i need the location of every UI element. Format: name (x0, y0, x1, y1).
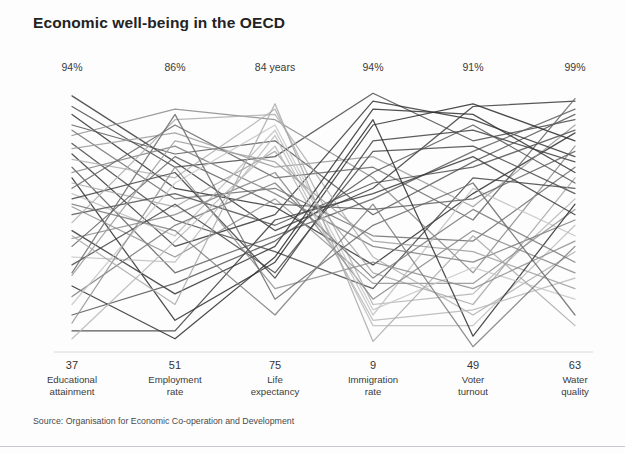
page-title: Economic well-being in the OECD (33, 14, 285, 32)
plot-canvas (0, 52, 625, 357)
axis-name-line2-3: expectancy (251, 386, 300, 398)
axis-min-value-5: 49 (458, 358, 488, 372)
chart-figure: Economic well-being in the OECD 94%86%84… (0, 0, 625, 453)
source-note: Source: Organisation for Economic Co-ope… (33, 416, 294, 426)
axis-name-line2-6: quality (561, 386, 589, 398)
axis-name-line2-1: attainment (47, 386, 97, 398)
axis-min-value-4: 9 (348, 358, 398, 372)
axis-name-line1-2: Employment (148, 374, 201, 386)
axis-bottom-label-2: 51Employmentrate (148, 358, 201, 398)
axis-name-line1-5: Voter (458, 374, 488, 386)
axis-name-line1-1: Educational (47, 374, 97, 386)
axis-name-line1-4: Immigration (348, 374, 398, 386)
series-line[interactable] (72, 109, 575, 273)
axis-bottom-label-1: 37Educationalattainment (47, 358, 97, 398)
axis-min-value-3: 75 (251, 358, 300, 372)
series-line[interactable] (72, 173, 575, 300)
axis-bottom-label-5: 49Voterturnout (458, 358, 488, 398)
axis-name-line1-3: Life (251, 374, 300, 386)
axis-name-line1-6: Water (561, 374, 589, 386)
bottom-divider (0, 446, 625, 447)
axis-bottom-label-3: 75Lifeexpectancy (251, 358, 300, 398)
parallel-coordinates-plot (0, 52, 625, 357)
series-line[interactable] (72, 109, 575, 273)
axis-name-line2-5: turnout (458, 386, 488, 398)
axis-name-line2-2: rate (148, 386, 201, 398)
axis-min-value-2: 51 (148, 358, 201, 372)
axis-name-line2-4: rate (348, 386, 398, 398)
axis-bottom-label-6: 63Waterquality (561, 358, 589, 398)
axis-bottom-label-4: 9Immigrationrate (348, 358, 398, 398)
series-line[interactable] (72, 146, 575, 339)
axis-min-value-6: 63 (561, 358, 589, 372)
axis-min-value-1: 37 (47, 358, 97, 372)
